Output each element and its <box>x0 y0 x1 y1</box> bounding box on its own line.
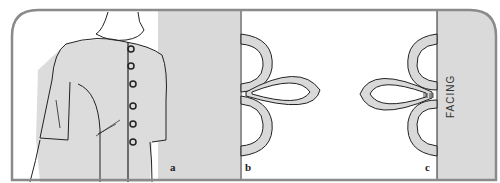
panel-label-a: a <box>170 161 176 173</box>
facing-label: FACING <box>445 75 456 118</box>
dress-illustration <box>30 12 168 182</box>
panel-label-c: c <box>425 161 430 173</box>
trefoil-loop-b <box>241 34 320 156</box>
panel-label-b: b <box>245 161 251 173</box>
sewing-diagram <box>0 0 500 183</box>
trefoil-loop-c <box>360 34 437 156</box>
panel-a-background-gray <box>158 10 240 180</box>
